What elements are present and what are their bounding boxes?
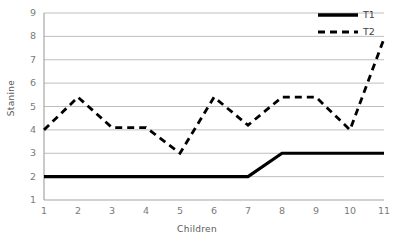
legend-label-t1: T1 [363, 9, 375, 20]
legend-label-t2: T2 [363, 26, 375, 37]
series-line-t2 [44, 39, 384, 154]
line-chart: Stanine Children 123456789 1234567891011… [0, 0, 394, 244]
legend-markers [318, 15, 358, 32]
series-line-t1 [44, 153, 384, 176]
plot-area [0, 0, 394, 244]
